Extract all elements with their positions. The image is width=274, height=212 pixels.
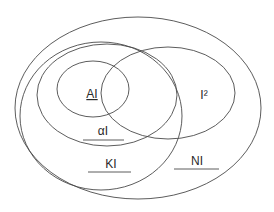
venn-diagram: AI I² αI KI NI: [0, 0, 274, 212]
label-ni: NI: [191, 154, 203, 168]
label-ki: KI: [105, 157, 116, 171]
label-alpha-i: αI: [98, 124, 108, 138]
set-ni-ellipse: [15, 17, 261, 199]
set-i-squared-ellipse: [101, 47, 235, 139]
label-ai: AI: [86, 87, 97, 101]
label-i-squared: I²: [200, 88, 207, 102]
